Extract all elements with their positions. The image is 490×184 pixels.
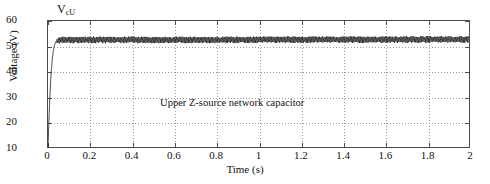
- series-label-base: V: [57, 2, 66, 16]
- x-tick-label: 0.6: [154, 149, 194, 161]
- x-tick-label: 0.4: [112, 149, 152, 161]
- x-tick-label: 2: [450, 149, 490, 161]
- y-tick-label: 20: [0, 116, 17, 127]
- y-axis-title: Voltage (V): [7, 8, 19, 104]
- x-tick-label: 1.4: [323, 149, 363, 161]
- series-label-vcu: VcU: [57, 2, 75, 17]
- x-tick-label: 1: [239, 149, 279, 161]
- y-tick-label: 10: [0, 142, 17, 153]
- signal-trace-vcu: [48, 21, 469, 147]
- x-tick-label: 1.2: [281, 149, 321, 161]
- plot-annotation: Upper Z-source network capacitor: [160, 97, 304, 108]
- plot-area: Upper Z-source network capacitor: [47, 20, 470, 148]
- x-tick-label: 1.8: [408, 149, 448, 161]
- trace-path: [48, 36, 469, 147]
- x-tick-label: 0.2: [69, 149, 109, 161]
- x-tick-label: 0: [27, 149, 67, 161]
- x-axis-title: Time (s): [0, 163, 490, 175]
- series-label-subscript: cU: [66, 8, 75, 17]
- x-tick-label: 1.6: [365, 149, 405, 161]
- x-tick-label: 0.8: [196, 149, 236, 161]
- figure: VcU Upper Z-source network capacitor 00.…: [0, 0, 490, 184]
